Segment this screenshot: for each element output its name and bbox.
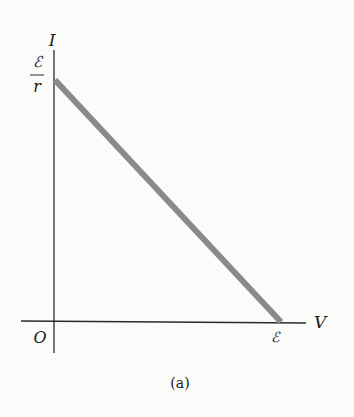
y-tick-numerator: ℰ bbox=[33, 53, 44, 71]
x-axis bbox=[21, 321, 306, 323]
origin-label: O bbox=[33, 328, 46, 347]
iv-graph: I V O ℰ r ℰ (a) bbox=[0, 0, 354, 417]
y-tick-denominator: r bbox=[33, 77, 42, 96]
y-axis-label: I bbox=[48, 30, 56, 50]
data-line bbox=[55, 80, 281, 322]
x-axis-label: V bbox=[314, 312, 328, 332]
figure-caption: (a) bbox=[170, 375, 189, 391]
x-tick-label: ℰ bbox=[271, 329, 281, 345]
